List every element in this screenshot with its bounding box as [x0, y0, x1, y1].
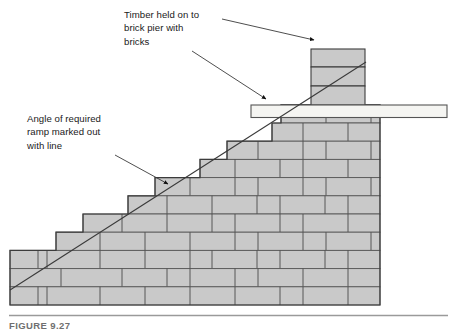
brick-pier — [311, 49, 365, 105]
brick-course-1 — [10, 287, 380, 305]
annotation-timber-held-on-to-brick-pier: Timber held on to brick pier with bricks — [124, 8, 199, 48]
brick-course-2 — [10, 269, 380, 287]
pier-brick-top — [311, 49, 365, 67]
figure-root: Timber held on to brick pier with bricks… — [0, 0, 457, 330]
brick-course-5 — [83, 214, 380, 232]
brick-course-4 — [56, 232, 380, 250]
pier-brick-bottom — [311, 86, 365, 105]
brick-course-3 — [10, 250, 380, 268]
brick-course-6 — [128, 196, 380, 214]
pier-brick-middle — [311, 67, 365, 86]
brick-course-10 — [272, 123, 380, 141]
annotation-angle-of-required-ramp: Angle of required ramp marked out with l… — [27, 112, 101, 152]
figure-caption: FIGURE 9.27 — [9, 320, 70, 330]
timber-straight-edge — [251, 105, 447, 118]
brick-course-7 — [155, 178, 380, 196]
brick-course-9 — [227, 141, 380, 159]
brick-ramp-diagram — [0, 0, 457, 330]
brick-course-8 — [200, 159, 380, 177]
